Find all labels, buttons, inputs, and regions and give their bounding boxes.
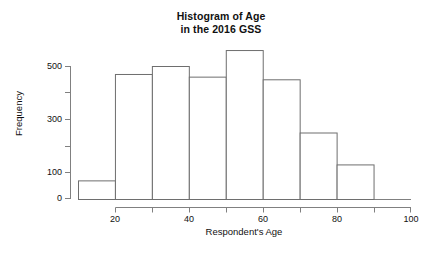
x-tick-label-100: 100 [396, 214, 426, 224]
x-tick-label-40: 40 [174, 214, 204, 224]
bar-60-70 [263, 80, 300, 200]
y-tick-label-0: 0 [28, 193, 62, 203]
bar-80-90 [337, 165, 374, 200]
bar-70-80 [300, 133, 337, 200]
x-axis-label: Respondent's Age [78, 226, 410, 237]
bar-50-60 [226, 51, 263, 200]
bars-group [79, 51, 375, 200]
y-tick-label-500: 500 [28, 61, 62, 71]
x-tick-label-60: 60 [248, 214, 278, 224]
bar-40-50 [189, 77, 226, 199]
x-tick-label-80: 80 [322, 214, 352, 224]
y-tick-label-300: 300 [28, 114, 62, 124]
x-tick-label-20: 20 [100, 214, 130, 224]
bar-20-30 [115, 74, 152, 199]
plot-area: 500 300 100 0 20 40 60 80 100 Frequency … [0, 0, 442, 255]
histogram-figure: Histogram of Age in the 2016 GSS Histogr… [0, 0, 442, 255]
y-axis-label: Frequency [13, 74, 24, 154]
plot-svg [0, 0, 442, 255]
bar-30-40 [152, 67, 189, 200]
bar-10-20 [79, 181, 116, 200]
y-tick-label-100: 100 [28, 167, 62, 177]
